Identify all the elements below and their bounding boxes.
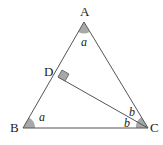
vertex-label-B: B bbox=[10, 120, 19, 135]
right-angle-marker bbox=[58, 70, 69, 81]
segment-CD bbox=[58, 77, 148, 128]
angle-a-at-B bbox=[23, 118, 35, 129]
side-CA bbox=[84, 22, 148, 128]
vertex-label-D: D bbox=[44, 64, 53, 79]
side-AB bbox=[23, 22, 84, 128]
vertex-label-A: A bbox=[80, 4, 90, 19]
triangle-diagram: A B C D a a b b bbox=[0, 0, 163, 145]
angle-label-B: a bbox=[39, 110, 45, 124]
vertex-label-C: C bbox=[150, 120, 159, 135]
angle-label-C-lower: b bbox=[124, 116, 130, 130]
angle-label-A: a bbox=[81, 35, 87, 49]
